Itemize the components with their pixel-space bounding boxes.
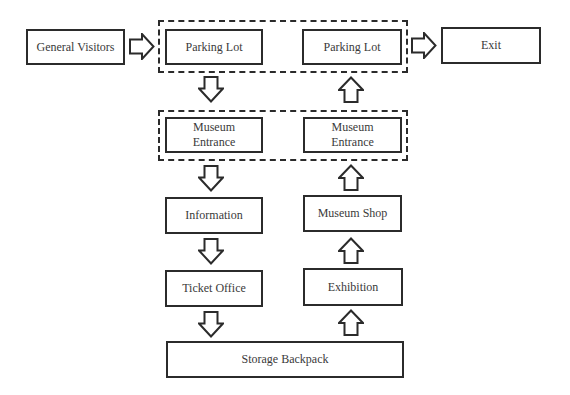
arrow-up-icon: [338, 164, 364, 191]
arrow-up-icon: [338, 237, 364, 264]
node-label: Ticket Office: [182, 281, 246, 296]
node-parking-lot-in: Parking Lot: [165, 29, 263, 65]
node-exhibition: Exhibition: [303, 268, 403, 306]
node-label-line2: Entrance: [331, 135, 374, 150]
node-label: Storage Backpack: [242, 352, 329, 367]
node-general-visitors: General Visitors: [26, 29, 125, 65]
arrow-up-icon: [338, 309, 364, 336]
arrow-right-icon: [129, 33, 155, 60]
node-label: Exhibition: [328, 280, 379, 295]
node-label: Exit: [481, 38, 501, 53]
node-museum-entrance-in: Museum Entrance: [165, 117, 263, 153]
node-exit: Exit: [441, 27, 541, 64]
node-label: Information: [185, 208, 242, 223]
arrow-down-icon: [198, 311, 224, 338]
node-storage-backpack: Storage Backpack: [166, 341, 404, 378]
node-ticket-office: Ticket Office: [165, 270, 263, 307]
arrow-down-icon: [198, 165, 224, 192]
node-label: Parking Lot: [186, 40, 243, 55]
node-label-line1: Museum: [332, 120, 374, 135]
node-information: Information: [165, 197, 263, 234]
node-label: General Visitors: [36, 40, 114, 55]
node-label-line1: Museum: [193, 120, 235, 135]
arrow-up-icon: [338, 76, 364, 103]
node-parking-lot-out: Parking Lot: [302, 29, 402, 65]
node-museum-entrance-out: Museum Entrance: [303, 117, 402, 153]
node-label: Museum Shop: [318, 206, 388, 221]
arrow-down-icon: [198, 76, 224, 103]
arrow-right-icon: [411, 32, 437, 59]
node-label: Parking Lot: [324, 40, 381, 55]
arrow-down-icon: [198, 238, 224, 265]
node-label-line2: Entrance: [193, 135, 236, 150]
node-museum-shop: Museum Shop: [303, 195, 402, 232]
